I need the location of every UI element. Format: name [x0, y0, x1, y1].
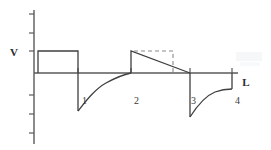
segment-label-4: 4: [235, 95, 240, 106]
x-axis-label: L: [242, 76, 249, 88]
y-axis-label: V: [10, 46, 18, 58]
segment-label-1: 1: [82, 95, 87, 106]
figure-background: [0, 0, 271, 150]
segment-label-2: 2: [134, 95, 139, 106]
segment-label-3: 3: [191, 95, 196, 106]
voltage-waveform-figure: V L 1 2 3 4: [0, 0, 271, 150]
